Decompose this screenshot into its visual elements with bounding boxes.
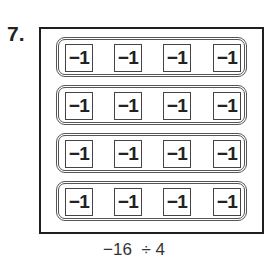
negative-one-tile: −1 (114, 140, 142, 168)
negative-one-tile: −1 (163, 44, 191, 72)
tile-group-2: −1 −1 −1 −1 (56, 85, 247, 125)
negative-one-tile: −1 (114, 92, 142, 120)
negative-one-tile: −1 (213, 44, 241, 72)
negative-one-tile: −1 (163, 92, 191, 120)
negative-one-tile: −1 (65, 188, 93, 216)
tile-group-1: −1 −1 −1 −1 (56, 37, 247, 77)
negative-one-tile: −1 (163, 188, 191, 216)
integer-tile-model: −1 −1 −1 −1 −1 −1 −1 −1 −1 −1 −1 −1 −1 −… (39, 27, 264, 234)
negative-one-tile: −1 (114, 188, 142, 216)
negative-one-tile: −1 (65, 140, 93, 168)
negative-one-tile: −1 (114, 44, 142, 72)
tile-group-4: −1 −1 −1 −1 (56, 181, 247, 221)
negative-one-tile: −1 (65, 92, 93, 120)
negative-one-tile: −1 (213, 92, 241, 120)
negative-one-tile: −1 (65, 44, 93, 72)
tile-group-3: −1 −1 −1 −1 (56, 133, 247, 173)
division-expression: −16 ÷ 4 (0, 240, 268, 260)
negative-one-tile: −1 (213, 140, 241, 168)
negative-one-tile: −1 (213, 188, 241, 216)
problem-number: 7. (7, 22, 25, 46)
negative-one-tile: −1 (163, 140, 191, 168)
